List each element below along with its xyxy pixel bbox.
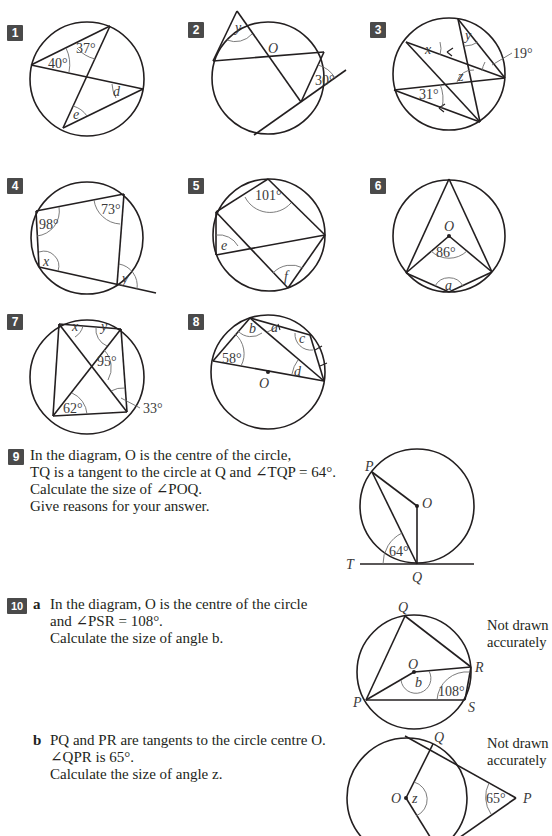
variable-label: x xyxy=(424,42,432,57)
angle-label: 30° xyxy=(315,73,335,88)
circle-diagram-7: x y 95° 62° 33° xyxy=(0,310,180,440)
point-label: O xyxy=(391,791,401,806)
angle-label: 31° xyxy=(419,87,439,102)
circle-diagram-1: 40° 37° d e xyxy=(0,20,180,145)
variable-label: d xyxy=(294,364,302,379)
question-line: TQ is a tangent to the circle at Q and ∠… xyxy=(30,464,350,481)
question-10a-text: In the diagram, O is the centre of the c… xyxy=(50,596,350,647)
angle-label: 64° xyxy=(389,544,409,559)
part-label-a: a xyxy=(33,596,41,613)
circle-diagram-3: x y z 19° 31° xyxy=(360,20,552,145)
centre-label: O xyxy=(444,219,454,234)
point-label: O xyxy=(422,496,432,511)
question-line: In the diagram, O is the centre of the c… xyxy=(30,447,350,464)
circle-diagram-10a: Q O R P S b 108° xyxy=(340,595,470,725)
question-line: PQ and PR are tangents to the circle cen… xyxy=(50,732,350,749)
angle-label: 95° xyxy=(97,354,117,369)
angle-label: 33° xyxy=(143,401,163,416)
angle-label: 98° xyxy=(39,217,59,232)
point-label: Q xyxy=(412,570,422,585)
circle-diagram-2: y O 30° xyxy=(180,20,360,160)
question-line: In the diagram, O is the centre of the c… xyxy=(50,596,350,613)
variable-label: f xyxy=(284,269,290,284)
question-10b-text: PQ and PR are tangents to the circle cen… xyxy=(50,732,350,783)
variable-label: x xyxy=(42,254,50,269)
point-label: T xyxy=(346,557,355,572)
angle-label: 73° xyxy=(101,202,121,217)
circle-diagram-4: 98° 73° x y xyxy=(0,175,180,300)
variable-label: e xyxy=(221,238,227,253)
variable-label: a xyxy=(445,278,452,293)
point-label: Q xyxy=(434,730,444,745)
circle-diagram-5: 101° e f xyxy=(180,175,360,300)
angle-label: 37° xyxy=(76,41,96,56)
question-9-text: In the diagram, O is the centre of the c… xyxy=(30,447,350,515)
point-label: P xyxy=(364,459,374,474)
variable-label: z xyxy=(457,69,464,84)
question-line: and ∠PSR = 108°. xyxy=(50,613,350,630)
point-label: P xyxy=(522,791,532,806)
angle-label: 101° xyxy=(255,188,282,203)
point-label: O xyxy=(408,657,418,672)
variable-label: x xyxy=(71,319,79,334)
question-line: Calculate the size of angle b. xyxy=(50,630,350,647)
angle-label: 65° xyxy=(486,791,506,806)
question-line: Give reasons for your answer. xyxy=(30,498,350,515)
point-label: Q xyxy=(398,600,408,615)
point-label: S xyxy=(468,700,475,715)
centre-label: O xyxy=(259,376,269,391)
not-drawn-accurately-note: Not drawn accurately xyxy=(487,735,549,769)
variable-label: b xyxy=(249,321,256,336)
variable-label: e xyxy=(73,107,79,122)
circle-diagram-9: P O T Q 64° xyxy=(340,460,552,585)
question-number-10: 10 xyxy=(7,598,27,614)
question-line: Calculate the size of ∠POQ. xyxy=(30,481,350,498)
variable-label: c xyxy=(299,331,306,346)
centre-label: O xyxy=(268,41,278,56)
question-line: Calculate the size of angle z. xyxy=(50,766,350,783)
circle-diagram-6: O 86° a xyxy=(360,175,552,300)
variable-label: y xyxy=(99,319,108,334)
angle-label: 40° xyxy=(48,56,68,71)
variable-label: z xyxy=(411,791,418,806)
question-line: ∠QPR is 65°. xyxy=(50,749,350,766)
variable-label: d xyxy=(113,84,121,99)
point-label: R xyxy=(474,660,484,675)
variable-label: b xyxy=(415,675,422,690)
variable-label: y xyxy=(233,20,242,35)
point-label: P xyxy=(352,695,362,710)
question-number-9: 9 xyxy=(8,449,24,465)
variable-label: y xyxy=(463,28,472,43)
angle-label: 108° xyxy=(438,684,465,699)
part-label-b: b xyxy=(33,732,41,749)
variable-label: y xyxy=(120,271,129,286)
variable-label: a xyxy=(271,320,278,335)
angle-label: 19° xyxy=(513,46,533,61)
angle-label: 62° xyxy=(63,401,83,416)
angle-label: 58° xyxy=(222,351,242,366)
angle-label: 86° xyxy=(436,245,456,260)
circle-diagram-8: b a c d 58° O xyxy=(180,310,360,440)
not-drawn-accurately-note: Not drawn accurately xyxy=(487,617,549,651)
